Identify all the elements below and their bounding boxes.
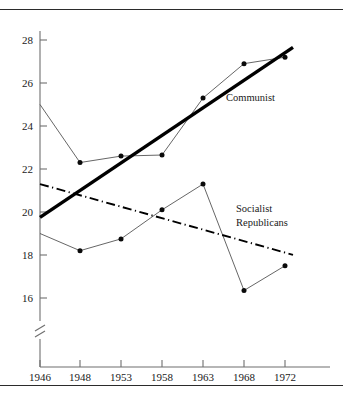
data-point [201, 182, 206, 187]
x-tick-label: 1948 [69, 371, 92, 383]
series-communist [40, 55, 288, 165]
series-label-communist: Communist [226, 92, 275, 103]
series-label-socialist-line2: Republicans [236, 217, 288, 228]
data-series-layer [40, 55, 288, 293]
y-tick-label: 24 [22, 120, 34, 132]
figure-bottom-rule [0, 385, 343, 386]
y-tick-label: 26 [22, 77, 34, 89]
x-tick-label: 1963 [192, 371, 215, 383]
x-tick-label: 1946 [29, 371, 52, 383]
x-tick-label: 1958 [151, 371, 174, 383]
y-tick-label: 28 [22, 34, 34, 46]
data-point [160, 207, 165, 212]
y-tick-label: 20 [22, 206, 34, 218]
x-tick-label: 1972 [274, 371, 296, 383]
data-point [78, 248, 83, 253]
data-point [78, 160, 83, 165]
trend-line-communist [40, 47, 293, 217]
y-tick-label: 22 [22, 163, 33, 175]
x-tick-marks [40, 360, 285, 367]
y-tick-labels: 28 26 24 22 20 18 16 [22, 34, 34, 304]
series-socialist-republicans [40, 182, 288, 293]
series-connector [40, 184, 285, 290]
x-tick-label: 1953 [110, 371, 133, 383]
series-label-socialist-line1: Socialist [236, 203, 272, 214]
chart-plot-area: 28 26 24 22 20 18 16 1946 1948 1953 1958… [0, 9, 343, 385]
figure-container: 28 26 24 22 20 18 16 1946 1948 1953 1958… [0, 0, 343, 397]
x-tick-label: 1968 [233, 371, 256, 383]
series-annotations: Communist Socialist Republicans [226, 92, 288, 228]
x-tick-labels: 1946 1948 1953 1958 1963 1968 1972 [29, 371, 296, 383]
data-point [160, 153, 165, 158]
y-tick-marks [40, 40, 47, 298]
series-connector [40, 57, 285, 162]
data-point [119, 154, 124, 159]
y-tick-label: 18 [22, 249, 34, 261]
data-point [283, 263, 288, 268]
y-tick-label: 16 [22, 292, 34, 304]
caption-fragment [0, 0, 343, 9]
data-point [242, 61, 247, 66]
y-axis [35, 31, 45, 367]
data-point [119, 236, 124, 241]
data-point [201, 96, 206, 101]
data-point [242, 288, 247, 293]
